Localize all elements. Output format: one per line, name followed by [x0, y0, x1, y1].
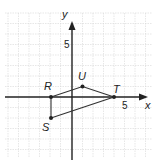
y-axis-arrow-icon [69, 21, 76, 30]
label-S: S [42, 121, 50, 133]
point-R [49, 95, 53, 99]
x-axis-label: x [144, 99, 151, 111]
point-S [49, 116, 53, 120]
label-R: R [44, 80, 52, 92]
label-T: T [113, 83, 121, 95]
point-T [112, 95, 116, 99]
y-tick-5: 5 [64, 39, 70, 50]
grid [5, 13, 152, 158]
coordinate-plane: y x 5 5 R U T S [0, 0, 159, 162]
label-U: U [78, 70, 86, 82]
x-tick-5: 5 [122, 100, 128, 111]
y-axis-label: y [61, 8, 69, 20]
point-U [81, 85, 85, 89]
